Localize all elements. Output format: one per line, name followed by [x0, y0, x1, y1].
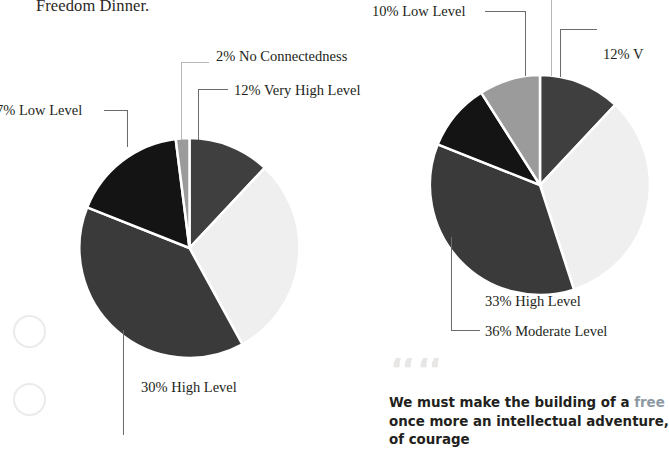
left-leader-very-high-v [198, 89, 199, 140]
right-pie-chart-svg [430, 75, 650, 295]
right-leader-low-h [485, 11, 526, 12]
page-header-text: Freedom Dinner. [36, 0, 149, 17]
quote-block: ““ We must make the building of a free o… [389, 358, 639, 450]
quote-line2: once more an intellectual adventure, [389, 413, 639, 432]
left-leader-low-v [127, 110, 128, 147]
quote-line1-a: We must make the building of a [389, 395, 634, 410]
right-leader-no-connectedness-v [551, 0, 552, 76]
right-leader-very-high-v [560, 29, 561, 77]
margin-circle-upper-icon [13, 315, 46, 348]
left-leader-low-h [104, 110, 128, 111]
left-label-very-high: 12% Very High Level [234, 81, 361, 99]
quote-line1-accent: free [634, 395, 665, 410]
right-leader-moderate-h [451, 330, 480, 331]
left-leader-no-connectedness-v [181, 62, 182, 140]
right-leader-moderate-v [451, 237, 452, 331]
quote-mark-icon: ““ [389, 358, 639, 390]
left-pie-chart [78, 138, 298, 358]
left-leader-high-v [123, 330, 124, 435]
right-pie-chart [430, 75, 650, 295]
left-label-no-connectedness: 2% No Connectedness [216, 47, 347, 65]
right-label-low: 10% Low Level [372, 2, 465, 20]
left-leader-no-connectedness-h [181, 62, 209, 63]
left-label-high: 30% High Level [141, 378, 237, 396]
right-label-high: 33% High Level [485, 292, 581, 310]
left-leader-very-high-h [198, 89, 228, 90]
margin-circle-lower-icon [13, 383, 46, 416]
left-pie-chart-svg [78, 138, 298, 358]
right-label-moderate: 36% Moderate Level [485, 322, 607, 340]
right-leader-low-v [525, 11, 526, 76]
left-label-low: 7% Low Level [0, 101, 82, 119]
quote-text: We must make the building of a free once… [389, 394, 639, 450]
right-leader-very-high-h [560, 29, 597, 30]
quote-line3: of courage [389, 431, 639, 450]
right-label-very-high: 12% V [603, 45, 643, 63]
